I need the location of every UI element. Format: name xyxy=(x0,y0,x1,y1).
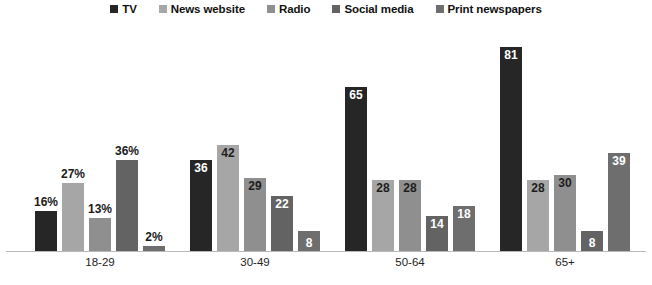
bar-wrap: 28 xyxy=(372,24,394,251)
legend-item-print-newspapers: Print newspapers xyxy=(436,3,542,15)
bar-tv[interactable]: 81 xyxy=(500,47,522,251)
bar-wrap: 13% xyxy=(89,24,111,251)
bar-wrap: 42 xyxy=(217,24,239,251)
bar-radio[interactable]: 28 xyxy=(399,180,421,251)
bar-wrap: 36 xyxy=(190,24,212,251)
bar-value-label: 13% xyxy=(82,203,118,216)
bar-wrap: 36% xyxy=(116,24,138,251)
bar-news-website[interactable]: 42 xyxy=(217,145,239,251)
legend-item-news-website: News website xyxy=(159,3,245,15)
legend-label-news-website: News website xyxy=(171,3,245,15)
bar-value-label: 28 xyxy=(527,182,549,195)
bar-news-website[interactable]: 27% xyxy=(62,183,84,251)
bar-value-label: 36 xyxy=(190,162,212,175)
bar-tv[interactable]: 16% xyxy=(35,211,57,251)
x-axis-label-50-64: 50-64 xyxy=(340,256,480,268)
bar-wrap: 39 xyxy=(608,24,630,251)
bar-print-newspapers[interactable]: 18 xyxy=(453,206,475,251)
bar-value-label: 39 xyxy=(608,155,630,168)
bar-radio[interactable]: 13% xyxy=(89,218,111,251)
x-axis-category-labels: 18-2930-4950-6465+ xyxy=(0,256,652,276)
bar-radio[interactable]: 29 xyxy=(244,178,266,251)
bar-wrap: 16% xyxy=(35,24,57,251)
bar-value-label: 16% xyxy=(28,196,64,209)
bar-value-label: 81 xyxy=(500,49,522,62)
bar-value-label: 29 xyxy=(244,180,266,193)
bar-value-label: 65 xyxy=(345,89,367,102)
bar-radio[interactable]: 30 xyxy=(554,175,576,251)
legend-label-radio: Radio xyxy=(279,3,310,15)
bar-value-label: 28 xyxy=(399,182,421,195)
legend-label-print-newspapers: Print newspapers xyxy=(448,3,542,15)
bar-social-media[interactable]: 36% xyxy=(116,160,138,251)
bar-value-label: 42 xyxy=(217,147,239,160)
bar-print-newspapers[interactable]: 2% xyxy=(143,246,165,251)
bar-value-label: 30 xyxy=(554,177,576,190)
bar-group-50-64: 6528281418 xyxy=(340,24,480,251)
bar-value-label: 14 xyxy=(426,218,448,231)
bar-group-30-49: 364229228 xyxy=(185,24,325,251)
x-axis-label-30-49: 30-49 xyxy=(185,256,325,268)
bar-value-label: 36% xyxy=(109,145,145,158)
bar-tv[interactable]: 36 xyxy=(190,160,212,251)
bar-wrap: 8 xyxy=(298,24,320,251)
x-axis-label-65plus: 65+ xyxy=(495,256,635,268)
legend-swatch-radio xyxy=(267,5,275,13)
bar-value-label: 2% xyxy=(136,231,172,244)
bar-group-18-29: 16%27%13%36%2% xyxy=(30,24,170,251)
bar-tv[interactable]: 65 xyxy=(345,87,367,251)
bar-news-website[interactable]: 28 xyxy=(527,180,549,251)
chart-legend: TV News website Radio Social media Print… xyxy=(0,3,652,15)
bar-wrap: 65 xyxy=(345,24,367,251)
bar-value-label: 18 xyxy=(453,208,475,221)
bar-wrap: 81 xyxy=(500,24,522,251)
bar-value-label: 22 xyxy=(271,198,293,211)
bar-wrap: 18 xyxy=(453,24,475,251)
legend-swatch-news-website xyxy=(159,5,167,13)
bar-wrap: 14 xyxy=(426,24,448,251)
bar-print-newspapers[interactable]: 8 xyxy=(298,231,320,251)
bar-chart: TV News website Radio Social media Print… xyxy=(0,0,652,285)
legend-item-tv: TV xyxy=(110,3,137,15)
bar-social-media[interactable]: 8 xyxy=(581,231,603,251)
x-axis-label-18-29: 18-29 xyxy=(30,256,170,268)
bar-wrap: 8 xyxy=(581,24,603,251)
bar-print-newspapers[interactable]: 39 xyxy=(608,153,630,251)
bar-value-label: 8 xyxy=(298,237,320,250)
bar-value-label: 8 xyxy=(581,237,603,250)
bar-news-website[interactable]: 28 xyxy=(372,180,394,251)
legend-item-social-media: Social media xyxy=(332,3,413,15)
bar-wrap: 2% xyxy=(143,24,165,251)
plot-area: 16%27%13%36%2%36422922865282814188128308… xyxy=(0,24,652,252)
legend-swatch-print-newspapers xyxy=(436,5,444,13)
legend-item-radio: Radio xyxy=(267,3,310,15)
bar-wrap: 29 xyxy=(244,24,266,251)
bar-social-media[interactable]: 22 xyxy=(271,196,293,251)
bar-wrap: 22 xyxy=(271,24,293,251)
bar-wrap: 27% xyxy=(62,24,84,251)
legend-label-tv: TV xyxy=(122,3,137,15)
legend-label-social-media: Social media xyxy=(344,3,413,15)
bar-wrap: 28 xyxy=(527,24,549,251)
x-axis-line xyxy=(6,251,646,252)
legend-swatch-tv xyxy=(110,5,118,13)
bar-social-media[interactable]: 14 xyxy=(426,216,448,251)
bar-wrap: 30 xyxy=(554,24,576,251)
legend-swatch-social-media xyxy=(332,5,340,13)
bar-group-65plus: 812830839 xyxy=(495,24,635,251)
bar-value-label: 27% xyxy=(55,168,91,181)
bar-value-label: 28 xyxy=(372,182,394,195)
bar-wrap: 28 xyxy=(399,24,421,251)
